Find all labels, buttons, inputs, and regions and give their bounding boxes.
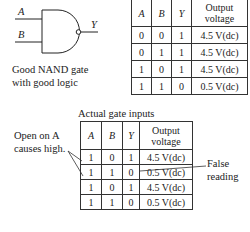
annotation-arrows xyxy=(0,0,250,232)
